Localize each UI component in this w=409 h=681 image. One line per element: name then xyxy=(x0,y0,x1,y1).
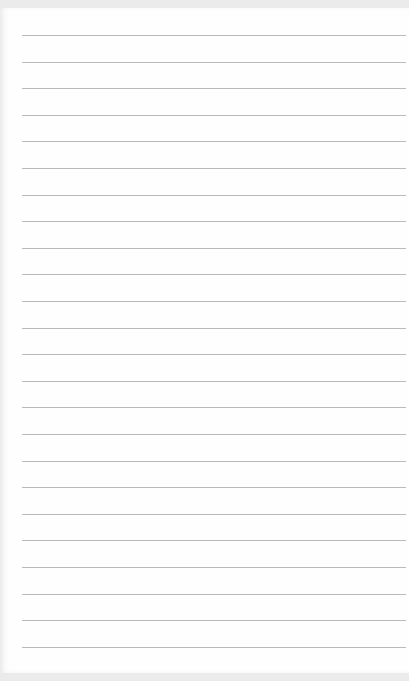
ruled-line xyxy=(22,647,406,648)
ruled-line xyxy=(22,434,406,435)
ruled-line xyxy=(22,354,406,355)
ruled-line xyxy=(22,487,406,488)
ruled-line xyxy=(22,168,406,169)
ruled-line xyxy=(22,540,406,541)
ruled-line xyxy=(22,115,406,116)
ruled-line xyxy=(22,248,406,249)
ruled-line xyxy=(22,620,406,621)
ruled-line xyxy=(22,195,406,196)
ruled-line xyxy=(22,141,406,142)
ruled-line xyxy=(22,594,406,595)
ruled-line xyxy=(22,274,406,275)
ruled-line xyxy=(22,381,406,382)
notepad-page xyxy=(0,8,409,673)
ruled-line xyxy=(22,221,406,222)
ruled-line xyxy=(22,301,406,302)
ruled-line xyxy=(22,461,406,462)
ruled-line xyxy=(22,88,406,89)
ruled-line xyxy=(22,567,406,568)
ruled-line xyxy=(22,514,406,515)
ruled-line xyxy=(22,328,406,329)
ruled-line xyxy=(22,35,406,36)
ruled-line xyxy=(22,407,406,408)
ruled-line xyxy=(22,62,406,63)
